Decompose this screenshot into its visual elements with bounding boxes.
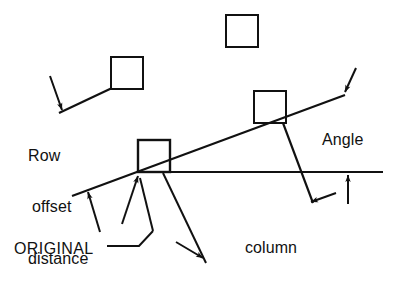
original-target-arrow — [122, 176, 138, 224]
top-square — [226, 15, 258, 47]
original-leader-riser — [140, 178, 153, 231]
column-offset-distance-label: column offset distance — [228, 204, 314, 290]
angle-top-arrow — [345, 68, 356, 92]
original-leader-line — [107, 231, 153, 246]
center-square — [138, 140, 170, 172]
angle-label: Angle — [322, 131, 363, 148]
row-offset-arrow — [50, 76, 62, 110]
column-offset-arrow — [311, 193, 336, 202]
diagram-canvas: Row offset distance Angle column offset … — [0, 0, 399, 290]
original-label: ORIGINAL — [14, 240, 94, 257]
leader-lines — [107, 173, 206, 263]
row-offset-distance-label: Row offset distance — [28, 112, 88, 290]
column-perpendicular-line — [283, 123, 313, 203]
column-offset-line1: column — [228, 239, 314, 256]
column-leader-line — [163, 173, 206, 263]
upper-left-square — [111, 57, 143, 89]
lower-left-arrow — [88, 192, 100, 232]
row-offset-line2: offset — [28, 198, 88, 215]
upper-left-offset-line — [59, 88, 112, 113]
row-offset-line1: Row — [28, 147, 88, 164]
